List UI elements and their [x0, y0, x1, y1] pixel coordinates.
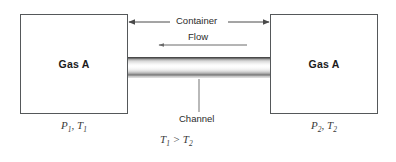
container-right: Gas A — [270, 14, 378, 114]
inequality-lhs-subscript: 1 — [166, 139, 170, 148]
pressure-subscript-left: 1 — [68, 125, 72, 134]
thermal-transpiration-diagram: Gas A Gas A Container Flow Chan — [0, 0, 396, 162]
state-label-right: P2, T2 — [270, 119, 378, 134]
channel-label: Channel — [176, 113, 217, 124]
flow-label: Flow — [185, 31, 211, 42]
temperature-subscript-right: 2 — [333, 125, 337, 134]
temperature-subscript-left: 1 — [83, 125, 87, 134]
container-label: Container — [173, 15, 220, 26]
container-left-label: Gas A — [21, 58, 127, 70]
inequality-rhs-subscript: 2 — [189, 139, 193, 148]
state-label-left: P1, T1 — [20, 119, 128, 134]
inequality-operator: > — [173, 133, 180, 145]
pressure-symbol-left: P — [61, 119, 68, 131]
channel-tube — [128, 57, 270, 78]
pressure-symbol-right: P — [311, 119, 318, 131]
container-left: Gas A — [20, 14, 128, 114]
container-right-label: Gas A — [271, 58, 377, 70]
temperature-inequality-label: T1 > T2 — [160, 133, 193, 148]
pressure-subscript-right: 2 — [318, 125, 322, 134]
